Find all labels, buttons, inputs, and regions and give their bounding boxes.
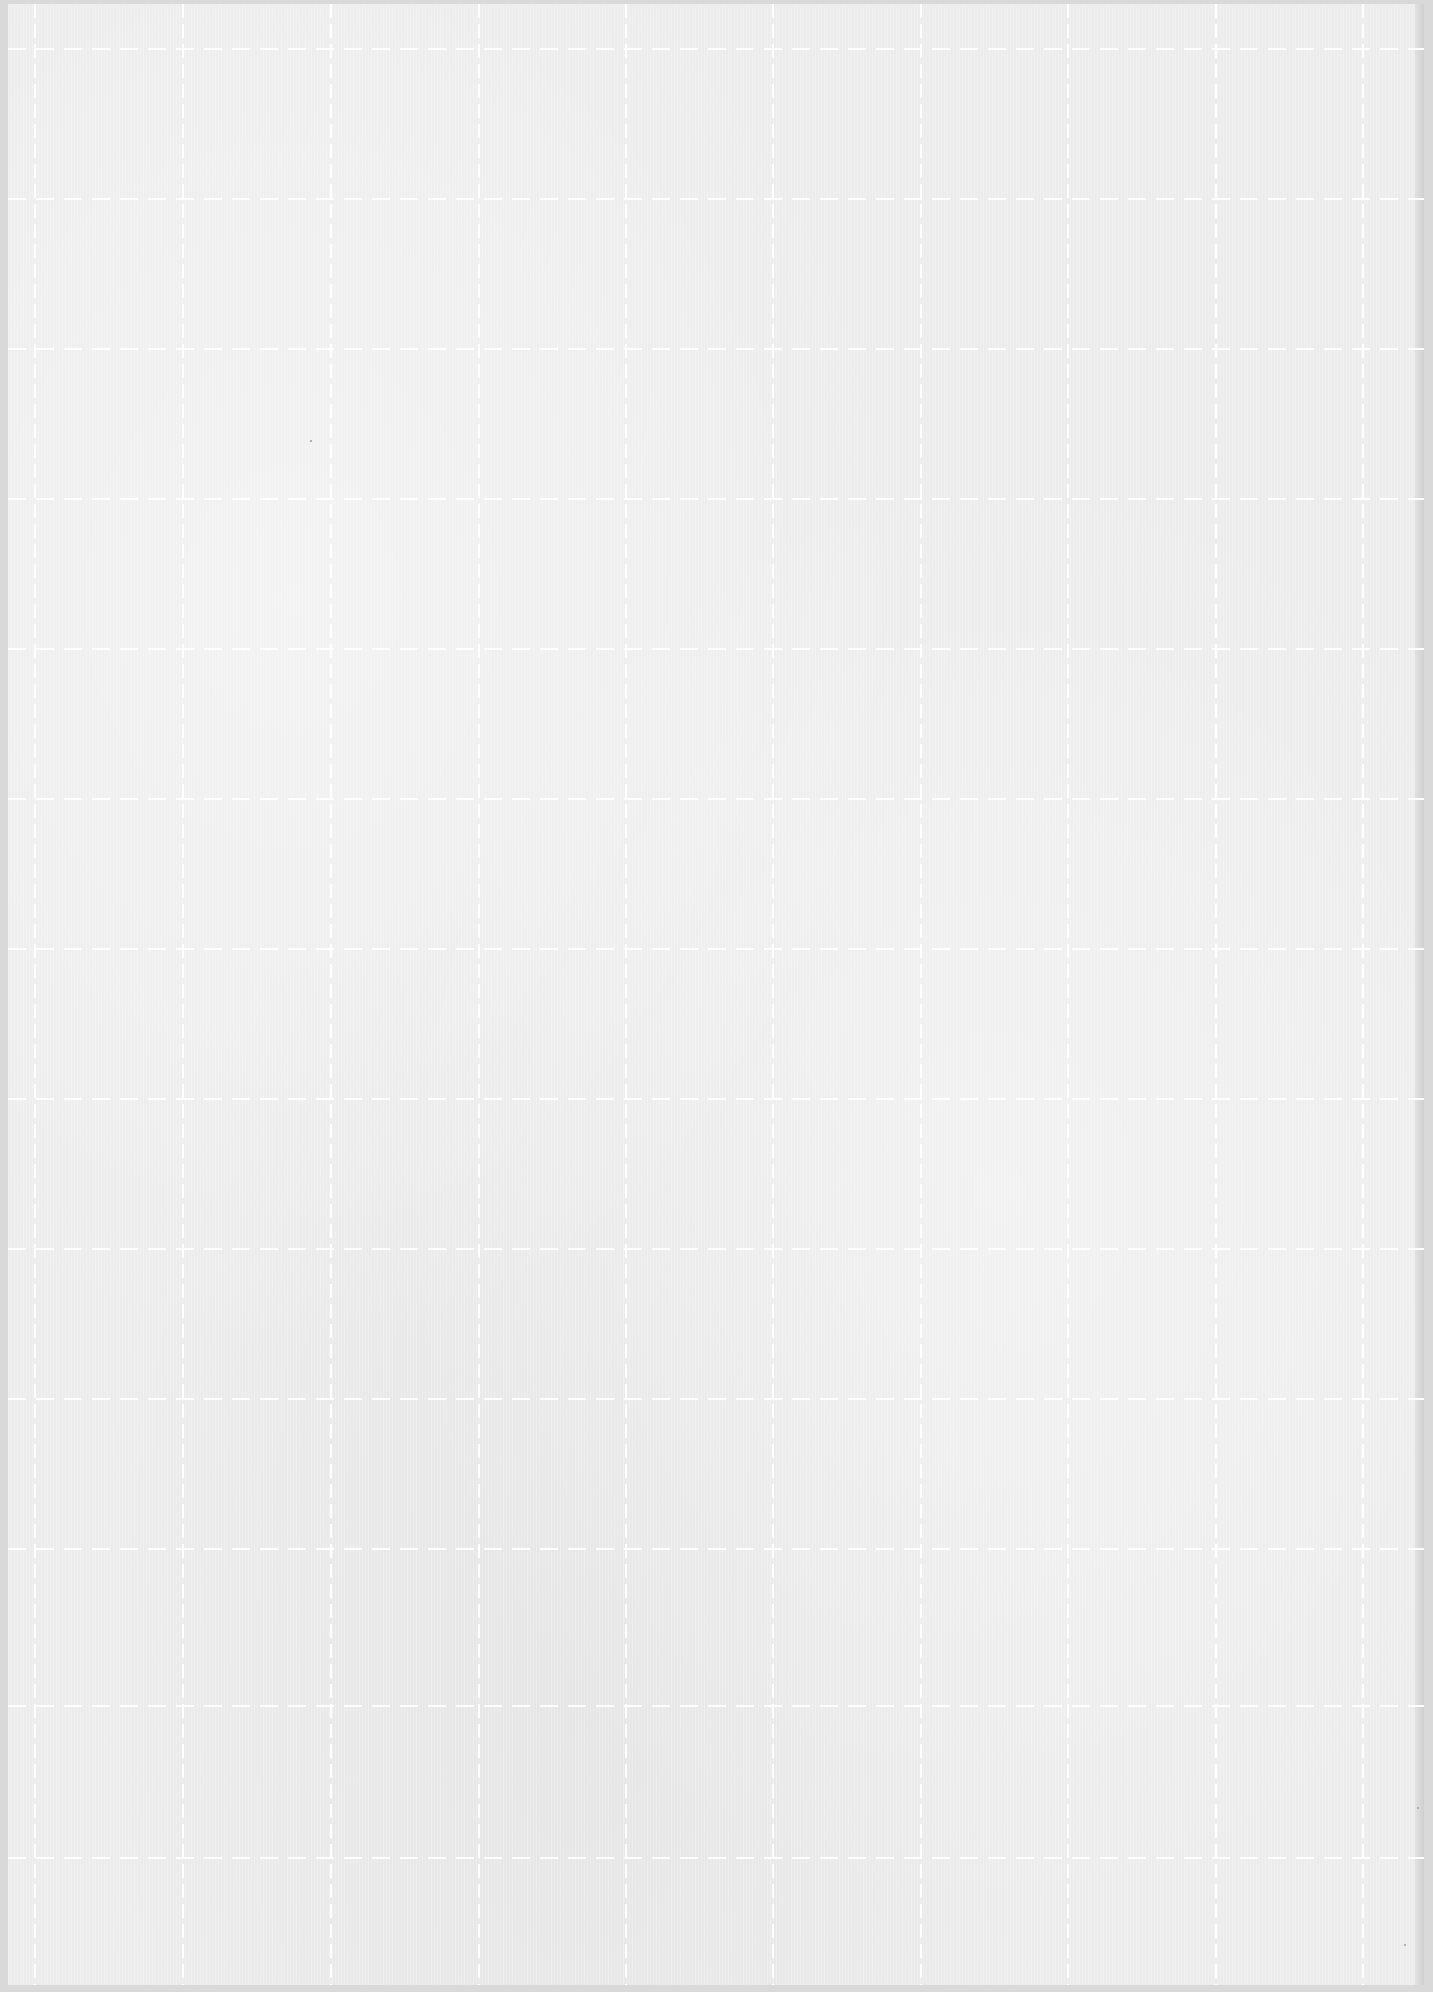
grid-line-horizontal	[8, 1857, 1424, 1859]
paper-speck	[1417, 1807, 1419, 1809]
grid-line-horizontal	[8, 48, 1424, 50]
grid-line-horizontal	[8, 1098, 1424, 1100]
grid-line-horizontal	[8, 1398, 1424, 1400]
grid-line-vertical	[182, 4, 184, 1985]
grid-line-horizontal	[8, 798, 1424, 800]
grid-line-vertical	[772, 4, 774, 1985]
grid-line-vertical	[34, 4, 36, 1985]
grid-line-horizontal	[8, 1705, 1424, 1707]
grid-line-vertical	[1215, 4, 1217, 1985]
grid-line-vertical	[330, 4, 332, 1985]
grid-line-horizontal	[8, 498, 1424, 500]
sheet-edge-shadow	[1415, 4, 1424, 1985]
grid-line-vertical	[920, 4, 922, 1985]
grid-line-horizontal	[8, 198, 1424, 200]
grid-line-horizontal	[8, 1248, 1424, 1250]
grid-line-vertical	[478, 4, 480, 1985]
grid-line-vertical	[1362, 4, 1364, 1985]
paper-speck	[1404, 1944, 1406, 1946]
paper-sheet	[8, 4, 1424, 1985]
grid-line-vertical	[1067, 4, 1069, 1985]
grid-line-horizontal	[8, 348, 1424, 350]
grid-line-horizontal	[8, 948, 1424, 950]
paper-speck	[310, 440, 312, 442]
grid-line-vertical	[625, 4, 627, 1985]
grid-line-horizontal	[8, 648, 1424, 650]
grid-line-horizontal	[8, 1548, 1424, 1550]
